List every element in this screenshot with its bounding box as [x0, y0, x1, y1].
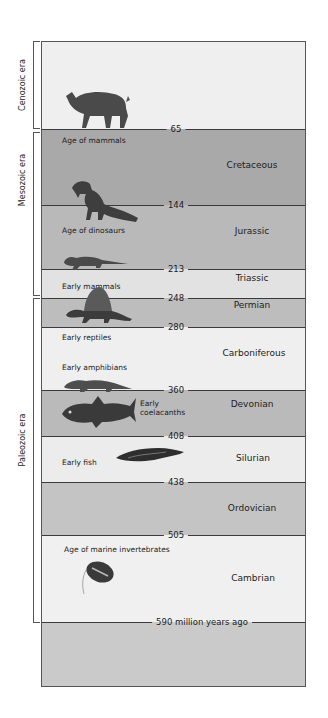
- period-permian: Permian: [234, 300, 271, 310]
- early-mammal-icon: [62, 254, 132, 272]
- dinosaur-icon: [68, 178, 140, 224]
- period-ordovician: Ordovician: [228, 503, 276, 513]
- amphibian-icon: [62, 377, 134, 393]
- era-bracket-mesozoic: [33, 132, 40, 296]
- caption-early-reptiles: Early reptiles: [62, 333, 111, 342]
- band-precambrian: [42, 622, 305, 687]
- period-cambrian: Cambrian: [231, 573, 275, 583]
- period-silurian: Silurian: [236, 453, 270, 463]
- geologic-timescale-chart: 65 144 213 248 280 360 408 438 505 590 m…: [41, 41, 306, 687]
- era-label-paleozoic: Paleozoic era: [18, 414, 27, 467]
- boundary-label-144: 144: [164, 200, 188, 210]
- caption-early-amphibians: Early amphibians: [62, 363, 127, 372]
- early-fish-icon: [114, 444, 186, 464]
- caption-early-coelacanths-2: coelacanths: [140, 408, 185, 417]
- caption-age-of-mammals: Age of mammals: [62, 136, 126, 145]
- era-label-cenozoic: Cenozoic era: [18, 59, 27, 111]
- caption-age-of-dinosaurs: Age of dinosaurs: [62, 226, 125, 235]
- caption-early-coelacanths-1: Early: [140, 399, 159, 408]
- caption-early-fish: Early fish: [62, 458, 97, 467]
- boundary-label-65: 65: [167, 124, 186, 134]
- coelacanth-fish-icon: [58, 392, 138, 430]
- period-triassic: Triassic: [236, 273, 269, 283]
- period-carboniferous: Carboniferous: [222, 348, 285, 358]
- era-label-mesozoic: Mesozoic era: [18, 154, 27, 206]
- boundary-label-248: 248: [164, 293, 188, 303]
- dimetrodon-reptile-icon: [64, 287, 134, 329]
- boundary-label-360: 360: [164, 385, 188, 395]
- era-bracket-cenozoic: [33, 41, 40, 129]
- trilobite-icon: [78, 556, 118, 596]
- mammal-rhino-icon: [62, 86, 132, 130]
- era-bracket-paleozoic: [33, 298, 40, 623]
- period-cretaceous: Cretaceous: [227, 160, 278, 170]
- period-jurassic: Jurassic: [235, 226, 269, 236]
- caption-marine-invertebrates: Age of marine invertebrates: [64, 545, 170, 554]
- boundary-label-438: 438: [164, 477, 188, 487]
- boundary-label-280: 280: [164, 322, 188, 332]
- boundary-label-408: 408: [164, 431, 188, 441]
- boundary-label-505: 505: [164, 530, 188, 540]
- boundary-label-590: 590 million years ago: [152, 617, 252, 627]
- boundary-label-213: 213: [164, 264, 188, 274]
- period-devonian: Devonian: [231, 399, 274, 409]
